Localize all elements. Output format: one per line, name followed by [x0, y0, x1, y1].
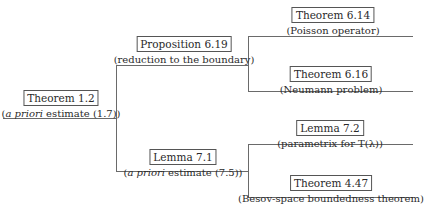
node-subtitle: (Poisson operator): [286, 25, 379, 37]
node-subtitle: (a priori estimate (1.7)): [1, 108, 120, 120]
node-subtitle: (parametrix for T(λ)): [277, 138, 383, 150]
node-theorem-6-16: Theorem 6.16 (Neumann problem): [280, 63, 383, 96]
node-title: Theorem 6.14: [292, 7, 374, 23]
node-theorem-4-47: Theorem 4.47 (Besov-space boundedness th…: [238, 172, 424, 205]
node-theorem-6-14: Theorem 6.14 (Poisson operator): [286, 4, 379, 37]
node-title: Lemma 7.2: [296, 120, 363, 136]
node-title: Proposition 6.19: [136, 36, 232, 52]
node-theorem-1-2: Theorem 1.2 (a priori estimate (1.7)): [1, 87, 120, 120]
node-subtitle: (a priori estimate (7.5)): [123, 167, 242, 179]
node-title: Theorem 1.2: [23, 90, 99, 106]
node-title: Theorem 4.47: [290, 175, 372, 191]
node-proposition-6-19: Proposition 6.19 (reduction to the bound…: [114, 33, 255, 66]
node-lemma-7-1: Lemma 7.1 (a priori estimate (7.5)): [123, 146, 242, 179]
node-subtitle: (Neumann problem): [280, 84, 383, 96]
node-lemma-7-2: Lemma 7.2 (parametrix for T(λ)): [277, 117, 383, 150]
node-title: Lemma 7.1: [149, 149, 216, 165]
node-subtitle: (Besov-space boundedness theorem): [238, 193, 424, 205]
node-title: Theorem 6.16: [290, 66, 372, 82]
node-subtitle: (reduction to the boundary): [114, 54, 255, 66]
